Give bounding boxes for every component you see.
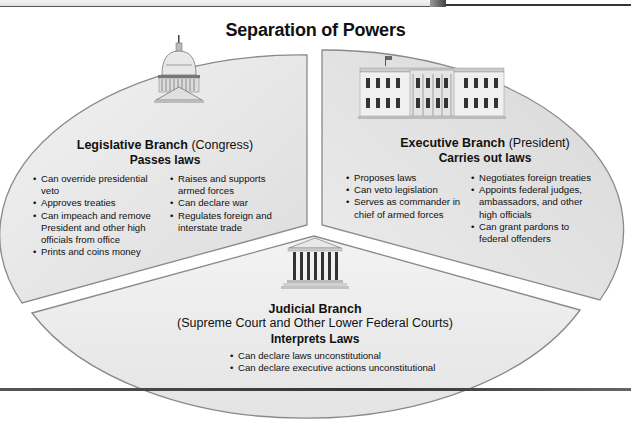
executive-qualifier: (President) [509, 136, 570, 150]
list-item: Can declare laws unconstitutional [230, 350, 460, 362]
legislative-powers-col1: Can override presidential veto Approves … [33, 173, 163, 258]
judicial-branch-block: Judicial Branch (Supreme Court and Other… [140, 302, 490, 346]
judicial-powers: Can declare laws unconstitutional Can de… [230, 350, 460, 374]
judicial-role: Interprets Laws [140, 332, 490, 346]
list-item: Can declare war [170, 197, 290, 209]
judicial-name: Judicial Branch [140, 302, 490, 316]
legislative-heading: Legislative Branch (Congress) [30, 138, 300, 152]
list-item: Can override presidential veto [33, 173, 163, 197]
list-item: Can impeach and remove President and oth… [33, 210, 163, 247]
legislative-branch-block: Legislative Branch (Congress) Passes law… [30, 138, 300, 167]
executive-powers-col1: Proposes laws Can veto legislation Serve… [346, 172, 471, 221]
executive-heading: Executive Branch (President) [360, 136, 610, 150]
judicial-qualifier: (Supreme Court and Other Lower Federal C… [140, 316, 490, 330]
list-item: Prints and coins money [33, 246, 163, 258]
legislative-qualifier: (Congress) [191, 138, 253, 152]
legislative-name: Legislative Branch [77, 138, 188, 152]
list-item: Serves as commander in chief of armed fo… [346, 196, 471, 220]
list-item: Can declare executive actions unconstitu… [230, 362, 460, 374]
executive-role: Carries out laws [360, 151, 610, 165]
list-item: Raises and supports armed forces [170, 173, 290, 197]
legislative-powers-col2: Raises and supports armed forces Can dec… [170, 173, 290, 234]
executive-branch-block: Executive Branch (President) Carries out… [360, 136, 610, 165]
list-item: Can veto legislation [346, 184, 471, 196]
executive-powers-col2: Negotiates foreign treaties Appoints fed… [471, 172, 591, 245]
list-item: Negotiates foreign treaties [471, 172, 591, 184]
list-item: Can grant pardons to federal offenders [471, 221, 591, 245]
bottom-rule [0, 388, 631, 391]
list-item: Appoints federal judges, ambassadors, an… [471, 184, 591, 221]
legislative-role: Passes laws [30, 153, 300, 167]
list-item: Regulates foreign and interstate trade [170, 210, 290, 234]
list-item: Proposes laws [346, 172, 471, 184]
list-item: Approves treaties [33, 197, 163, 209]
executive-name: Executive Branch [400, 136, 505, 150]
